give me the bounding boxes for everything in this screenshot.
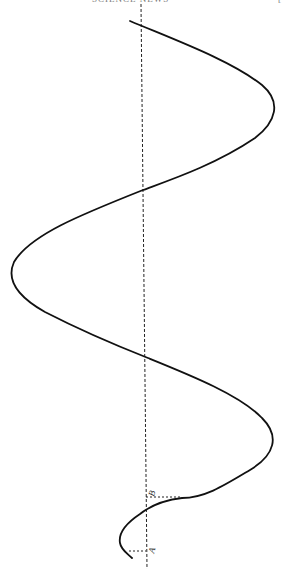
label-a: A (146, 546, 157, 555)
wave-diagram: B A (0, 0, 287, 569)
label-b: B (146, 489, 157, 497)
central-axis (141, 4, 147, 569)
wave-curve (11, 21, 274, 558)
